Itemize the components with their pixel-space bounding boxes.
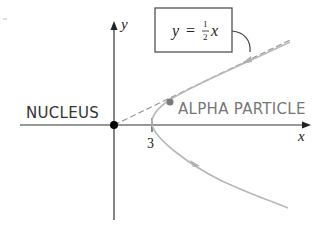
outgoing-direction-arrow-icon bbox=[190, 160, 200, 167]
equation-leader-line bbox=[232, 31, 250, 52]
alpha-particle-label: ALPHA PARTICLE bbox=[178, 100, 306, 118]
nucleus-label: NUCLEUS bbox=[26, 104, 99, 122]
alpha-particle-dot bbox=[167, 99, 174, 106]
x-axis-label: x bbox=[297, 128, 305, 144]
tick-3-label: 3 bbox=[147, 136, 154, 151]
y-axis: y bbox=[111, 16, 129, 220]
incoming-direction-arrow-icon bbox=[241, 56, 252, 64]
y-axis-arrow-icon bbox=[111, 21, 118, 30]
alpha-particle-trajectory-diagram: y x 3 ALPHA PARTICLE NUCLEUS y = 1 2 x bbox=[0, 0, 319, 231]
nucleus-dot bbox=[110, 121, 118, 129]
equation-equals: = bbox=[186, 22, 195, 39]
tick-3: 3 bbox=[147, 118, 154, 151]
equation-numerator: 1 bbox=[203, 19, 208, 29]
equation-variable: x bbox=[210, 22, 218, 39]
y-axis-label: y bbox=[119, 16, 128, 32]
equation-lhs: y bbox=[170, 22, 180, 40]
equation-denominator: 2 bbox=[203, 32, 208, 42]
equation-callout: y = 1 2 x bbox=[155, 8, 250, 52]
x-axis: x bbox=[20, 122, 311, 145]
